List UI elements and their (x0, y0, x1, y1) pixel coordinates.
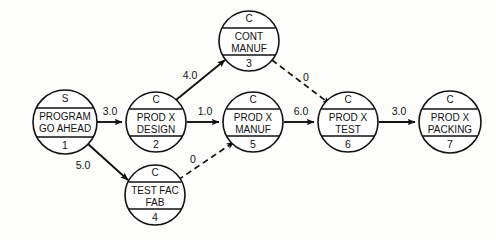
node-5-id: 5 (250, 138, 256, 150)
nodes-layer: S PROGRAM GO AHEAD 1 C PROD X DESIGN 2 (33, 11, 481, 225)
edge-label-6-7: 3.0 (392, 105, 407, 117)
node-4-label-line1: TEST FAC (131, 185, 179, 196)
network-diagram-canvas: 3.0 5.0 4.0 1.0 0 0 6.0 3.0 S PROGRAM GO… (0, 0, 496, 240)
node-2-id: 2 (153, 138, 159, 150)
node-2-label-line1: PROD X (137, 112, 176, 123)
node-3-id: 3 (246, 57, 252, 69)
node-3-type: C (245, 13, 252, 24)
node-3[interactable]: C CONT MANUF 3 (219, 11, 279, 71)
node-2-label-line2: DESIGN (137, 124, 175, 135)
edge-label-5-6: 6.0 (294, 105, 309, 117)
network-diagram-svg: 3.0 5.0 4.0 1.0 0 0 6.0 3.0 S PROGRAM GO… (0, 0, 496, 240)
node-7-label-line1: PROD X (431, 112, 470, 123)
edge-label-1-2: 3.0 (103, 105, 118, 117)
node-6-id: 6 (345, 138, 351, 150)
node-1-label-line1: PROGRAM (39, 111, 91, 122)
edge-label-2-5: 1.0 (198, 105, 213, 117)
edge-label-3-6: 0 (303, 71, 309, 83)
node-7-label-line2: PACKING (428, 124, 472, 135)
edge-4-to-5 (178, 142, 234, 180)
edge-label-4-5: 0 (190, 153, 196, 165)
node-4-type: C (151, 167, 158, 178)
node-2-type: C (152, 94, 159, 105)
node-6-type: C (344, 94, 351, 105)
node-2[interactable]: C PROD X DESIGN 2 (126, 92, 186, 152)
node-3-label-line2: MANUF (231, 43, 267, 54)
edge-label-1-4: 5.0 (76, 159, 91, 171)
node-1[interactable]: S PROGRAM GO AHEAD 1 (33, 90, 97, 154)
node-1-label-line2: GO AHEAD (39, 123, 91, 134)
node-5-type: C (249, 94, 256, 105)
node-6-label-line1: PROD X (329, 112, 368, 123)
node-6[interactable]: C PROD X TEST 6 (318, 92, 378, 152)
node-5-label-line2: MANUF (235, 124, 271, 135)
node-1-id: 1 (62, 139, 68, 151)
edge-label-2-3: 4.0 (183, 69, 198, 81)
node-6-label-line2: TEST (335, 124, 361, 135)
node-7-id: 7 (447, 138, 453, 150)
node-5-label-line1: PROD X (234, 112, 273, 123)
node-4[interactable]: C TEST FAC FAB 4 (125, 165, 185, 225)
node-5[interactable]: C PROD X MANUF 5 (223, 92, 283, 152)
node-1-type: S (62, 93, 69, 104)
node-7[interactable]: C PROD X PACKING 7 (419, 91, 481, 153)
node-4-label-line2: FAB (146, 197, 165, 208)
node-4-id: 4 (152, 211, 158, 223)
edge-3-to-6 (272, 60, 330, 104)
node-3-label-line1: CONT (235, 31, 263, 42)
edge-1-to-4 (88, 144, 128, 180)
node-7-type: C (446, 94, 453, 105)
